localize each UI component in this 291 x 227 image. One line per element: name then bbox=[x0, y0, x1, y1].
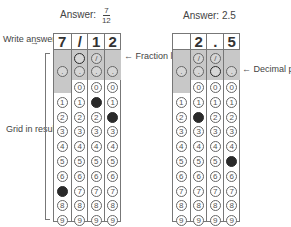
digit-bubble-3[interactable]: 3 bbox=[107, 126, 118, 137]
digit-bubble-7[interactable]: 7 bbox=[107, 186, 118, 197]
decimal-bubble[interactable]: . bbox=[91, 66, 102, 77]
digit-bubble-0[interactable]: 0 bbox=[226, 82, 237, 93]
digit-bubble-9[interactable]: 9 bbox=[91, 215, 102, 226]
digit-bubble-1[interactable]: 1 bbox=[226, 97, 237, 108]
digit-bubble-1[interactable]: 1 bbox=[210, 97, 221, 108]
digit-bubble-5[interactable]: 5 bbox=[210, 156, 221, 167]
digit-bubble-4[interactable]: 4 bbox=[176, 141, 187, 152]
digit-bubble-1[interactable]: 1 bbox=[176, 97, 187, 108]
grid-column: 2.0123456789 bbox=[104, 34, 122, 221]
digit-bubble-9[interactable]: 9 bbox=[74, 215, 85, 226]
slash-bubble[interactable]: / bbox=[91, 53, 102, 64]
digit-bubble-8[interactable]: 8 bbox=[226, 200, 237, 211]
digit-bubble-4[interactable]: 4 bbox=[107, 141, 118, 152]
digit-bubble-3[interactable]: 3 bbox=[57, 126, 68, 137]
digit-bubble-5[interactable]: 5 bbox=[74, 156, 85, 167]
digit-bubble-9[interactable]: 9 bbox=[176, 215, 187, 226]
digit-bubble-9[interactable]: 9 bbox=[193, 215, 204, 226]
digit-bubble-2[interactable]: 2 bbox=[74, 112, 85, 123]
decimal-point-text: Decimal point bbox=[254, 64, 291, 74]
digit-bubble-5[interactable]: 5 bbox=[57, 156, 68, 167]
digit-bubble-2[interactable]: 2 bbox=[193, 112, 204, 123]
decimal-point-label: ← Decimal point bbox=[242, 65, 290, 74]
digit-bubble-8[interactable]: 8 bbox=[91, 200, 102, 211]
digit-bubble-4[interactable]: 4 bbox=[57, 141, 68, 152]
digit-bubble-8[interactable]: 8 bbox=[210, 200, 221, 211]
digit-bubble-6[interactable]: 6 bbox=[74, 171, 85, 182]
digit-bubble-7[interactable]: 7 bbox=[226, 186, 237, 197]
digit-bubble-9[interactable]: 9 bbox=[226, 215, 237, 226]
decimal-bubble[interactable]: . bbox=[210, 66, 221, 77]
decimal-bubble[interactable]: . bbox=[176, 66, 187, 77]
right-answer-grid: .1234567892/.0123456789./.01234567895.01… bbox=[172, 33, 240, 222]
digit-bubble-1[interactable]: 1 bbox=[74, 97, 85, 108]
digit-bubble-2[interactable]: 2 bbox=[226, 112, 237, 123]
digit-bubble-3[interactable]: 3 bbox=[74, 126, 85, 137]
digit-bubble-5[interactable]: 5 bbox=[91, 156, 102, 167]
grid-in-label: Grid in result. bbox=[6, 125, 46, 134]
digit-bubble-4[interactable]: 4 bbox=[74, 141, 85, 152]
digit-bubble-6[interactable]: 6 bbox=[226, 171, 237, 182]
digit-bubble-7[interactable]: 7 bbox=[176, 186, 187, 197]
arrow-left-icon: ← bbox=[242, 64, 254, 74]
answer-box[interactable]: 2 bbox=[191, 34, 208, 50]
digit-bubble-8[interactable]: 8 bbox=[107, 200, 118, 211]
digit-bubble-5[interactable]: 5 bbox=[176, 156, 187, 167]
digit-bubble-0[interactable]: 0 bbox=[91, 82, 102, 93]
digit-bubble-5[interactable]: 5 bbox=[226, 156, 237, 167]
digit-bubble-2[interactable]: 2 bbox=[210, 112, 221, 123]
digit-bubble-8[interactable]: 8 bbox=[74, 200, 85, 211]
digit-bubble-1[interactable]: 1 bbox=[107, 97, 118, 108]
digit-bubble-9[interactable]: 9 bbox=[57, 215, 68, 226]
digit-bubble-3[interactable]: 3 bbox=[226, 126, 237, 137]
digit-bubble-0[interactable]: 0 bbox=[107, 82, 118, 93]
digit-bubble-3[interactable]: 3 bbox=[91, 126, 102, 137]
digit-bubble-2[interactable]: 2 bbox=[176, 112, 187, 123]
digit-bubble-1[interactable]: 1 bbox=[193, 97, 204, 108]
answer-box[interactable]: 5 bbox=[224, 34, 241, 50]
digit-bubble-8[interactable]: 8 bbox=[57, 200, 68, 211]
digit-bubble-1[interactable]: 1 bbox=[57, 97, 68, 108]
digit-bubble-7[interactable]: 7 bbox=[91, 186, 102, 197]
digit-bubble-0[interactable]: 0 bbox=[193, 82, 204, 93]
digit-bubble-0[interactable]: 0 bbox=[210, 82, 221, 93]
digit-bubble-7[interactable]: 7 bbox=[210, 186, 221, 197]
digit-bubble-4[interactable]: 4 bbox=[226, 141, 237, 152]
digit-bubble-4[interactable]: 4 bbox=[193, 141, 204, 152]
digit-bubble-0[interactable]: 0 bbox=[74, 82, 85, 93]
decimal-bubble[interactable]: . bbox=[57, 66, 68, 77]
digit-bubble-6[interactable]: 6 bbox=[193, 171, 204, 182]
digit-bubble-6[interactable]: 6 bbox=[107, 171, 118, 182]
digit-bubble-6[interactable]: 6 bbox=[57, 171, 68, 182]
right-answer-title: Answer: 2.5 bbox=[183, 10, 236, 21]
digit-bubble-2[interactable]: 2 bbox=[91, 112, 102, 123]
slash-bubble[interactable]: / bbox=[210, 53, 221, 64]
answer-box[interactable]: 2 bbox=[105, 34, 122, 50]
digit-bubble-7[interactable]: 7 bbox=[57, 186, 68, 197]
digit-bubble-3[interactable]: 3 bbox=[193, 126, 204, 137]
digit-bubble-3[interactable]: 3 bbox=[210, 126, 221, 137]
digit-bubble-9[interactable]: 9 bbox=[210, 215, 221, 226]
digit-bubble-8[interactable]: 8 bbox=[176, 200, 187, 211]
digit-bubble-6[interactable]: 6 bbox=[91, 171, 102, 182]
digit-bubble-5[interactable]: 5 bbox=[193, 156, 204, 167]
digit-bubble-4[interactable]: 4 bbox=[210, 141, 221, 152]
answer-box[interactable]: . bbox=[207, 34, 224, 50]
digit-bubble-9[interactable]: 9 bbox=[107, 215, 118, 226]
digit-bubble-4[interactable]: 4 bbox=[91, 141, 102, 152]
digit-bubble-5[interactable]: 5 bbox=[107, 156, 118, 167]
digit-bubble-7[interactable]: 7 bbox=[193, 186, 204, 197]
digit-bubble-6[interactable]: 6 bbox=[176, 171, 187, 182]
digit-bubble-2[interactable]: 2 bbox=[57, 112, 68, 123]
answer-box[interactable]: 1 bbox=[88, 34, 105, 50]
answer-box[interactable]: / bbox=[72, 34, 89, 50]
answer-box[interactable] bbox=[173, 34, 190, 50]
digit-bubble-1[interactable]: 1 bbox=[91, 97, 102, 108]
digit-bubble-7[interactable]: 7 bbox=[74, 186, 85, 197]
digit-bubble-2[interactable]: 2 bbox=[107, 112, 118, 123]
digit-bubble-6[interactable]: 6 bbox=[210, 171, 221, 182]
digit-bubble-3[interactable]: 3 bbox=[176, 126, 187, 137]
digit-bubble-8[interactable]: 8 bbox=[193, 200, 204, 211]
grid-column: 7.123456789 bbox=[54, 34, 71, 221]
answer-box[interactable]: 7 bbox=[54, 34, 71, 50]
